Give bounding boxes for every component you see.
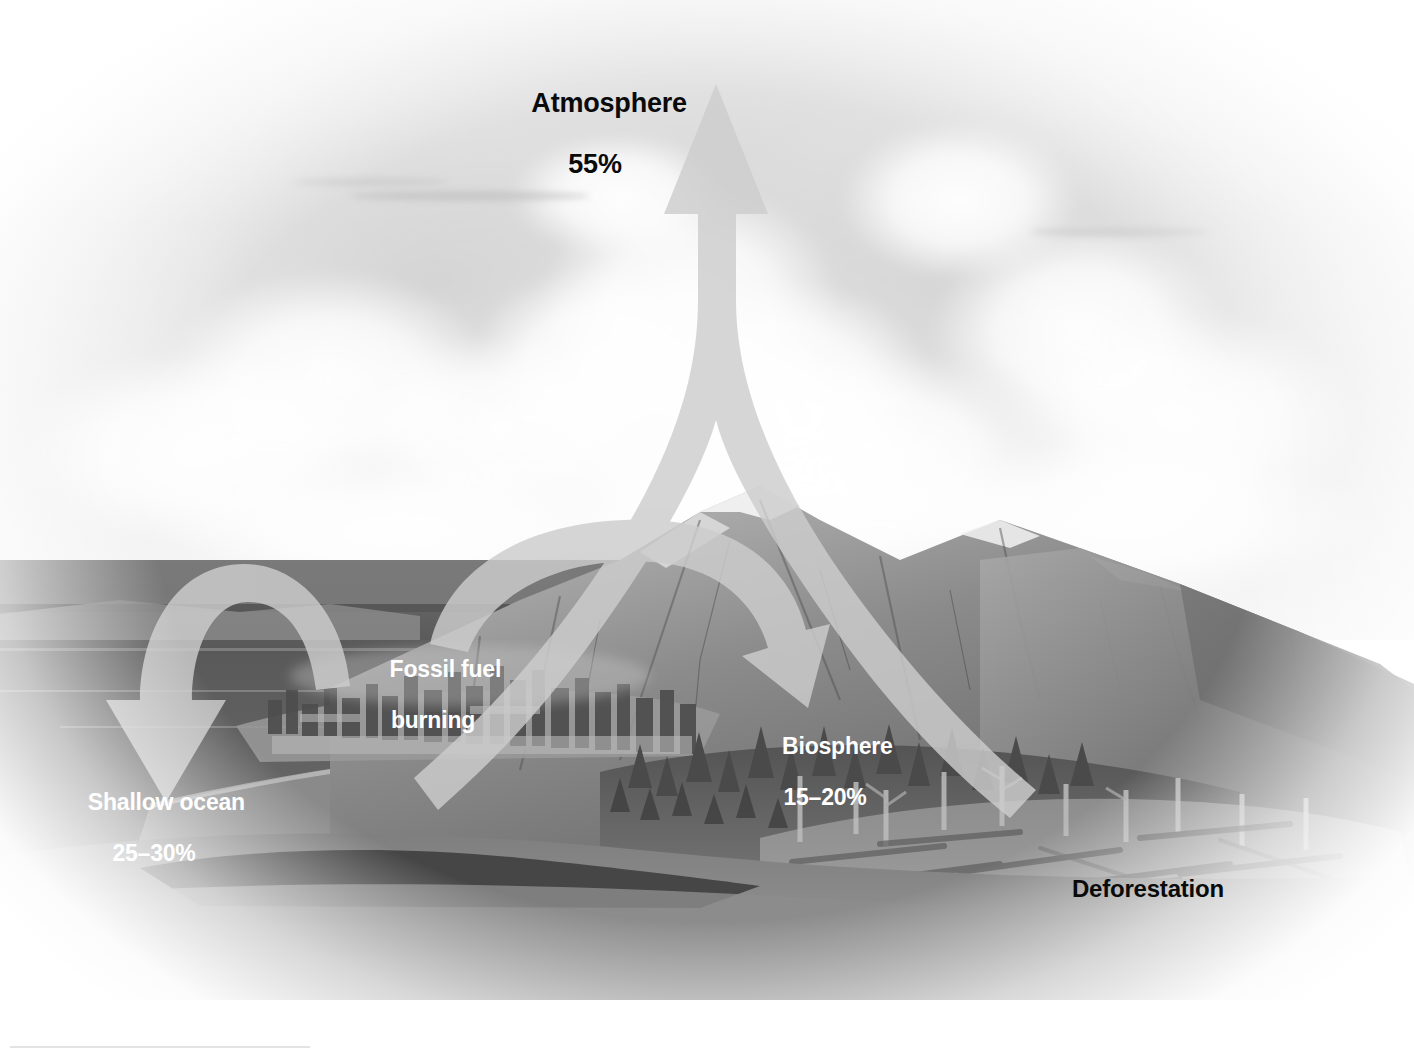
bottom-rule xyxy=(10,1046,310,1048)
edge-vignette xyxy=(0,0,1414,1059)
scene-illustration xyxy=(0,0,1414,1059)
carbon-cycle-figure: Atmosphere 55% Fossil fuel burning Shall… xyxy=(0,0,1414,1059)
